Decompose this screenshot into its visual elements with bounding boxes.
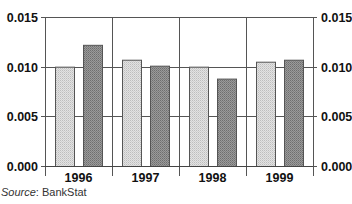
bar-dark-1997	[151, 66, 170, 166]
x-tick-label: 1998	[199, 171, 227, 185]
y-tick-label-left: 0.010	[7, 61, 38, 75]
bar-light-1997	[123, 60, 142, 166]
source-note: Source: BankStat	[1, 186, 87, 198]
source-text: : BankStat	[36, 186, 87, 198]
x-tick-label: 1999	[266, 171, 294, 185]
y-tick-label-right: 0.010	[321, 61, 352, 75]
y-tick-label-left: 0.000	[7, 160, 38, 174]
bar-light-1999	[257, 62, 276, 166]
y-tick-label-right: 0.000	[321, 160, 352, 174]
source-label: Source	[1, 186, 36, 198]
y-tick-label-left: 0.005	[7, 110, 38, 124]
bar-light-1998	[190, 67, 209, 166]
y-tick-label-right: 0.015	[321, 11, 352, 25]
bar-dark-1999	[285, 60, 304, 166]
bar-dark-1998	[218, 79, 237, 166]
x-tick-label: 1997	[132, 171, 160, 185]
bar-light-1996	[56, 67, 75, 166]
y-tick-label-left: 0.015	[7, 11, 38, 25]
y-tick-label-right: 0.005	[321, 110, 352, 124]
bar-dark-1996	[84, 45, 103, 166]
x-tick-label: 1996	[65, 171, 93, 185]
bar-chart: 0.0000.0000.0050.0050.0100.0100.0150.015…	[0, 0, 352, 204]
